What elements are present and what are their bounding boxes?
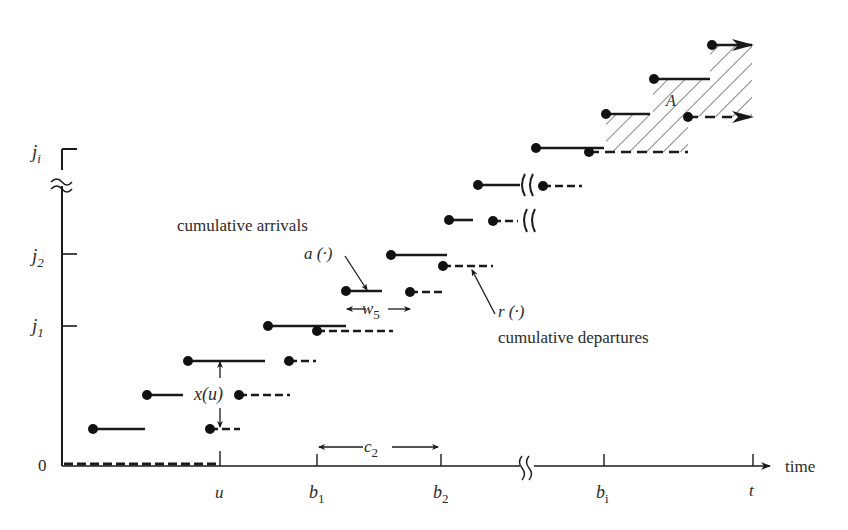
x-axis: [62, 451, 770, 480]
axis-break-icon: [520, 456, 525, 480]
arrivals-function-label: a (·): [304, 244, 333, 263]
annotation-arrows: [220, 256, 495, 447]
cycle-length-label: c2: [364, 437, 378, 460]
x-tick-label-b2: b2: [433, 482, 449, 506]
departures-function-label: r (·): [498, 302, 525, 321]
departures-steps: [205, 112, 752, 434]
x-tick-label-b1: b1: [309, 482, 325, 506]
x-tick-label-t: t: [749, 481, 755, 500]
y-tick-label-ji: ji: [29, 141, 41, 166]
y-tick-label-j2: j2: [29, 245, 44, 270]
departures-title: cumulative departures: [498, 328, 649, 347]
arrivals-title: cumulative arrivals: [177, 216, 308, 235]
y-tick-label-j1: j1: [29, 315, 44, 340]
arrivals-steps: [88, 40, 752, 434]
shaded-area-a: [600, 40, 760, 160]
y-axis: [51, 149, 77, 466]
queueing-diagram: 0 ji j2 j1 u b1 b2 bi t time cumulative …: [0, 0, 848, 530]
axis-break-icon: [51, 179, 72, 185]
x-axis-label: time: [785, 457, 815, 476]
waiting-time-label: w5: [362, 299, 380, 322]
queue-length-label: x(u): [193, 384, 223, 405]
x-tick-label-bi: bi: [596, 482, 609, 506]
area-label-a: A: [665, 92, 676, 109]
y-origin-label: 0: [38, 456, 47, 475]
x-tick-label-u: u: [215, 483, 224, 502]
